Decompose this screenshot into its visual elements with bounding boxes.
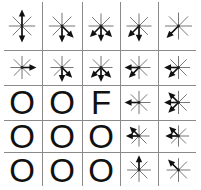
grid-cell-r5-c4 — [120, 152, 158, 188]
cell-letter: O — [49, 86, 75, 119]
grid-cell-r3-c4 — [120, 85, 158, 120]
grid-cell-r4-c5 — [158, 120, 199, 152]
cell-letter: O — [88, 120, 114, 153]
cell-letter: O — [49, 120, 75, 153]
grid-cell-r4-c4 — [120, 120, 158, 152]
star-policy-icon — [158, 152, 199, 188]
grid-cell-r2-c4 — [120, 50, 158, 85]
cell-letter: O — [9, 154, 35, 187]
cell-letter: F — [91, 86, 111, 119]
grid-cell-r5-c5 — [158, 152, 199, 188]
grid-cell-r3-c1: O — [2, 85, 42, 120]
star-policy-icon — [158, 120, 199, 152]
policy-grid: OOFOOOOOO — [0, 0, 201, 190]
cell-letter: O — [88, 154, 114, 187]
cell-letter: O — [9, 86, 35, 119]
arrow-down-left-icon — [167, 26, 179, 38]
grid-cell-r1-c1 — [2, 2, 42, 50]
grid-cell-r2-c2 — [42, 50, 82, 85]
grid-cell-r2-c3 — [82, 50, 120, 85]
star-policy-icon — [158, 2, 199, 50]
grid-cell-r3-c2: O — [42, 85, 82, 120]
star-policy-icon — [120, 152, 158, 188]
cell-letter: O — [9, 120, 35, 153]
grid-cell-r5-c3: O — [82, 152, 120, 188]
grid-cell-r1-c2 — [42, 2, 82, 50]
star-policy-icon — [42, 2, 82, 50]
star-policy-icon — [120, 50, 158, 85]
cell-letter: O — [49, 154, 75, 187]
star-policy-icon — [82, 50, 120, 85]
grid-cell-r1-c3 — [82, 2, 120, 50]
grid-cell-r5-c1: O — [2, 152, 42, 188]
grid-cell-r4-c3: O — [82, 120, 120, 152]
star-policy-icon — [82, 2, 120, 50]
star-policy-icon — [42, 50, 82, 85]
star-policy-icon — [120, 120, 158, 152]
arrow-up-left-icon — [168, 160, 178, 170]
grid-cell-r3-c3: F — [82, 85, 120, 120]
star-policy-icon — [120, 2, 158, 50]
star-policy-icon — [2, 50, 42, 85]
grid-cell-r2-c5 — [158, 50, 199, 85]
grid-cell-r4-c2: O — [42, 120, 82, 152]
grid-cell-r5-c2: O — [42, 152, 82, 188]
grid-cell-r3-c5 — [158, 85, 199, 120]
star-policy-icon — [158, 50, 199, 85]
grid-cell-r1-c4 — [120, 2, 158, 50]
grid-cell-r2-c1 — [2, 50, 42, 85]
star-policy-icon — [158, 85, 199, 120]
star-policy-icon — [2, 2, 42, 50]
grid-cell-r1-c5 — [158, 2, 199, 50]
grid-cell-r4-c1: O — [2, 120, 42, 152]
star-policy-icon — [120, 85, 158, 120]
